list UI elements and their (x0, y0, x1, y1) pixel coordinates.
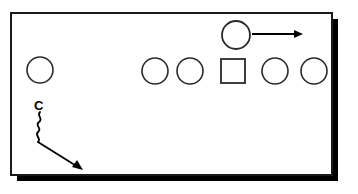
play-diagram-canvas: C (0, 0, 358, 194)
play-diagram-svg: C (0, 0, 358, 194)
player-square-center[interactable] (221, 59, 245, 83)
player-circle-motion-back[interactable] (222, 21, 250, 49)
player-circle-lineman-1[interactable] (142, 58, 168, 84)
field-frame (11, 13, 332, 175)
player-circle-lineman-3[interactable] (262, 58, 288, 84)
player-circle-lineman-2[interactable] (177, 58, 203, 84)
player-circle-lineman-4[interactable] (301, 58, 327, 84)
player-circle-left-wide[interactable] (27, 57, 53, 83)
label-c: C (34, 98, 44, 113)
